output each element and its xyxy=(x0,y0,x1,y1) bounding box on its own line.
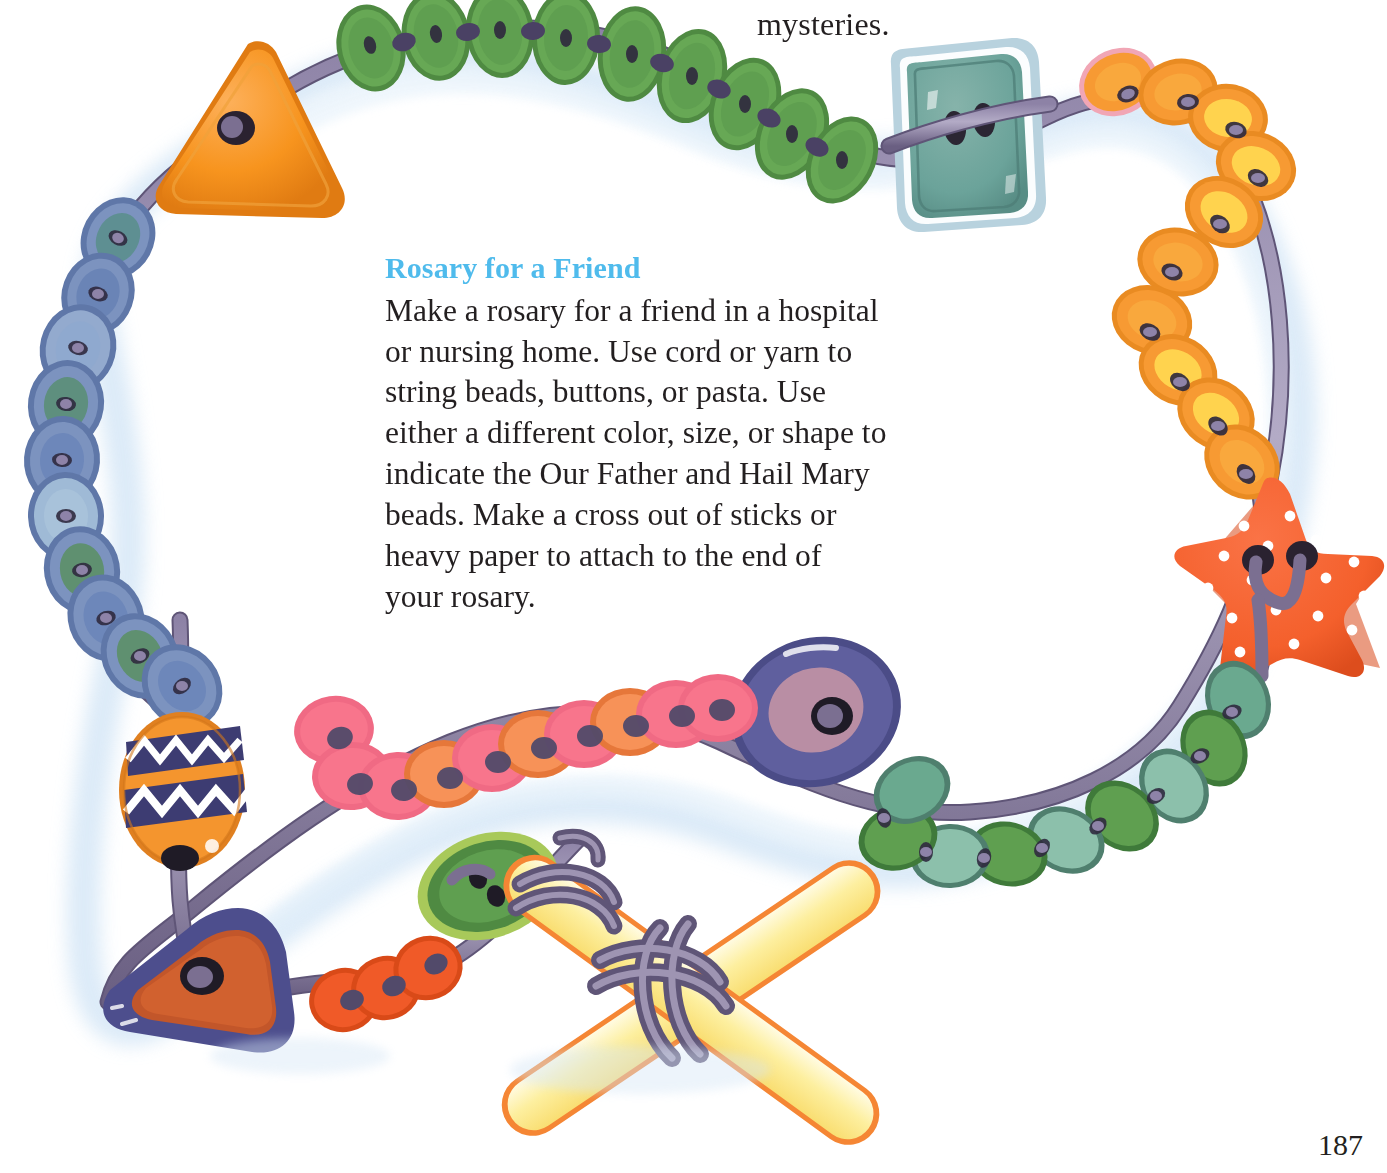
page-number: 187 xyxy=(1318,1128,1363,1162)
green-button-chain-right xyxy=(851,651,1282,894)
body-line: or nursing home. Use cord or yarn to xyxy=(385,332,1025,373)
body-line: your rosary. xyxy=(385,577,1025,618)
popsicle-stick-cross xyxy=(490,836,893,1157)
article-body: Make a rosary for a friend in a hospital… xyxy=(385,291,1025,619)
navy-triangle-button xyxy=(103,908,294,1053)
carryover-clipped-line xyxy=(757,0,1377,4)
striped-egg-bead xyxy=(119,712,248,871)
orange-button-chain-bottom xyxy=(303,926,472,1039)
body-line: string beads, buttons, or pasta. Use xyxy=(385,372,1025,413)
body-line: either a different color, size, or shape… xyxy=(385,413,1025,454)
page-title: Rosary for a Friend xyxy=(385,250,1025,287)
article-text-block: Rosary for a Friend Make a rosary for a … xyxy=(385,250,1025,618)
body-line: beads. Make a cross out of sticks or xyxy=(385,495,1025,536)
body-line: Make a rosary for a friend in a hospital xyxy=(385,291,1025,332)
body-line: indicate the Our Father and Hail Mary xyxy=(385,454,1025,495)
body-line: heavy paper to attach to the end of xyxy=(385,536,1025,577)
carryover-last-word: mysteries. xyxy=(757,6,890,43)
book-page: mysteries. Rosary for a Friend Make a ro… xyxy=(0,0,1387,1173)
